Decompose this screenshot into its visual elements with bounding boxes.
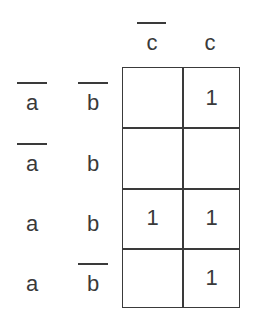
row-1-a-label: a [17,153,47,175]
row-0-b-label: b [78,92,108,114]
row-2-a-label: a [17,213,47,235]
row-1-b-label: b [78,153,108,175]
row-1-a-negation-bar [17,143,47,145]
row-0-a-label: a [17,92,47,114]
row-3-a-label: a [17,273,47,295]
cell-r0-c0 [123,68,182,128]
kmap-grid: 1 1 1 1 [122,67,240,308]
column-header-c: c [195,32,225,54]
row-0-b-negation-bar [78,82,108,84]
row-2-b-label: b [78,213,108,235]
cell-r3-c1: 1 [182,248,241,308]
row-3-b-label: b [78,273,108,295]
cell-r1-c1 [182,128,241,188]
column-0-negation-bar [137,22,166,24]
cell-r3-c0 [123,248,182,308]
row-0-a-negation-bar [17,82,47,84]
cell-r1-c0 [123,128,182,188]
cell-r0-c1: 1 [182,68,241,128]
column-header-c-bar: c [137,32,167,54]
cell-r2-c1: 1 [182,188,241,248]
cell-r2-c0: 1 [123,188,182,248]
row-3-b-negation-bar [78,263,108,265]
